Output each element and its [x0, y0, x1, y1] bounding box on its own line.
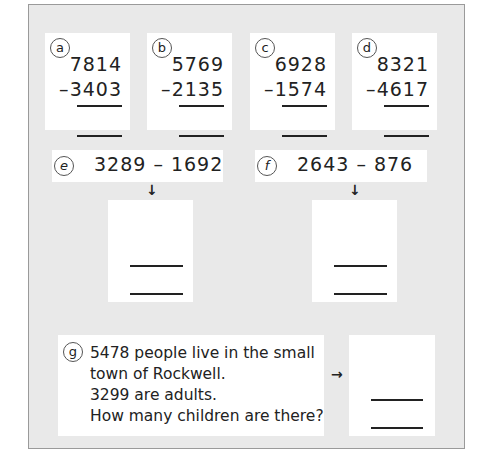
minus-sign: – — [161, 78, 171, 100]
problem-c-card: c 6928 – 1574 — [250, 33, 335, 130]
problem-label-badge: c — [255, 38, 275, 58]
problem-label-badge: g — [63, 342, 83, 362]
minus-sign: – — [59, 78, 69, 100]
problem-label-badge: f — [257, 156, 277, 176]
down-arrow-icon: ↓ — [349, 182, 361, 198]
underline — [282, 105, 327, 107]
problem-b-card: b 5769 – 2135 — [147, 33, 232, 130]
down-arrow-icon: ↓ — [146, 182, 158, 198]
text-line: 5478 people live in the small — [90, 343, 324, 364]
text-line: 3299 are adults. — [90, 385, 324, 406]
text-line: town of Rockwell. — [90, 364, 324, 385]
answer-line[interactable] — [179, 135, 224, 137]
text-line: How many children are there? — [90, 406, 324, 427]
minus-sign: – — [366, 78, 376, 100]
problem-label-badge: d — [357, 38, 377, 58]
problem-g-text-box: g 5478 people live in the small town of … — [58, 335, 324, 436]
minuend: 6928 — [275, 53, 327, 75]
minuend: 8321 — [377, 53, 429, 75]
subtrahend: 3403 — [70, 78, 122, 100]
answer-line[interactable] — [282, 135, 327, 137]
expression: 3289 – 1692 — [94, 153, 223, 175]
answer-line[interactable] — [334, 293, 387, 295]
working-line[interactable] — [130, 265, 183, 267]
word-problem-text: 5478 people live in the small town of Ro… — [90, 343, 324, 427]
answer-line[interactable] — [130, 293, 183, 295]
answer-line[interactable] — [77, 135, 122, 137]
problem-label-badge: e — [54, 156, 74, 176]
problem-e-answer-box — [108, 200, 193, 302]
answer-line[interactable] — [371, 427, 423, 429]
problem-label-badge: b — [152, 38, 172, 58]
expression: 2643 – 876 — [297, 153, 413, 175]
minuend: 7814 — [70, 53, 122, 75]
working-line[interactable] — [371, 399, 423, 401]
problem-f-bar: f 2643 – 876 — [255, 150, 427, 182]
minus-sign: – — [264, 78, 274, 100]
underline — [384, 105, 429, 107]
problem-d-card: d 8321 – 4617 — [352, 33, 437, 130]
right-arrow-icon: → — [331, 366, 343, 382]
underline — [179, 105, 224, 107]
working-line[interactable] — [334, 265, 387, 267]
problem-label-badge: a — [50, 38, 70, 58]
problem-e-bar: e 3289 – 1692 — [52, 150, 223, 182]
subtrahend: 4617 — [377, 78, 429, 100]
problem-g-answer-box — [349, 335, 435, 436]
answer-line[interactable] — [384, 135, 429, 137]
problem-f-answer-box — [312, 200, 397, 302]
subtrahend: 1574 — [275, 78, 327, 100]
problem-a-card: a 7814 – 3403 — [45, 33, 130, 130]
underline — [77, 105, 122, 107]
minuend: 5769 — [172, 53, 224, 75]
subtrahend: 2135 — [172, 78, 224, 100]
